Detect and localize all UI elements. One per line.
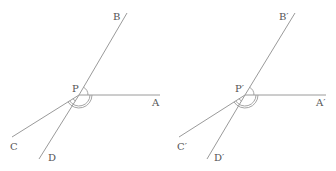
- figure-left: ABCDP: [10, 11, 160, 163]
- ray-b: [79, 13, 127, 95]
- point-label-d: D′: [214, 152, 225, 163]
- ray-c: [12, 95, 79, 137]
- arc-apb: [250, 87, 254, 95]
- angle-diagram: ABCDP A′B′C′D′P′: [0, 0, 336, 171]
- point-label-d: D: [48, 152, 56, 163]
- point-label-c: C′: [177, 141, 188, 152]
- arc-apc-outer: [70, 95, 90, 106]
- point-label-c: C: [10, 141, 18, 152]
- arc-cpd: [73, 99, 75, 101]
- arc-apc-outer: [236, 95, 256, 106]
- point-label-b: B′: [279, 11, 289, 22]
- point-label-a: A: [151, 97, 160, 108]
- figure-right: A′B′C′D′P′: [177, 11, 326, 163]
- arc-cpd: [239, 99, 241, 101]
- arc-apb: [84, 87, 88, 95]
- vertex-label: P: [72, 83, 79, 94]
- point-label-b: B: [113, 11, 120, 22]
- ray-b: [245, 13, 295, 95]
- point-label-a: A′: [315, 97, 326, 108]
- vertex-label: P′: [235, 83, 245, 94]
- ray-c: [179, 95, 245, 137]
